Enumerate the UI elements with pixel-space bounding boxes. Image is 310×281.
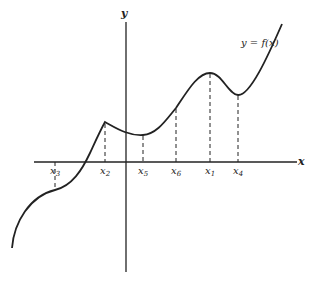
graph-canvas: x y y = f(x) x3 x2 x5 x6 x1 x4 — [0, 0, 310, 281]
label-x2: x2 — [100, 165, 111, 178]
function-curve — [12, 24, 282, 248]
label-x5: x5 — [138, 165, 149, 178]
label-x4: x4 — [233, 165, 243, 178]
label-x1: x1 — [205, 165, 215, 178]
label-x3: x3 — [50, 165, 61, 178]
x-axis-label: x — [297, 155, 305, 168]
curve-label: y = f(x) — [240, 37, 279, 48]
y-axis-label: y — [120, 7, 129, 20]
label-x6: x6 — [171, 165, 182, 178]
function-graph-figure: x y y = f(x) x3 x2 x5 x6 x1 x4 — [0, 0, 310, 281]
